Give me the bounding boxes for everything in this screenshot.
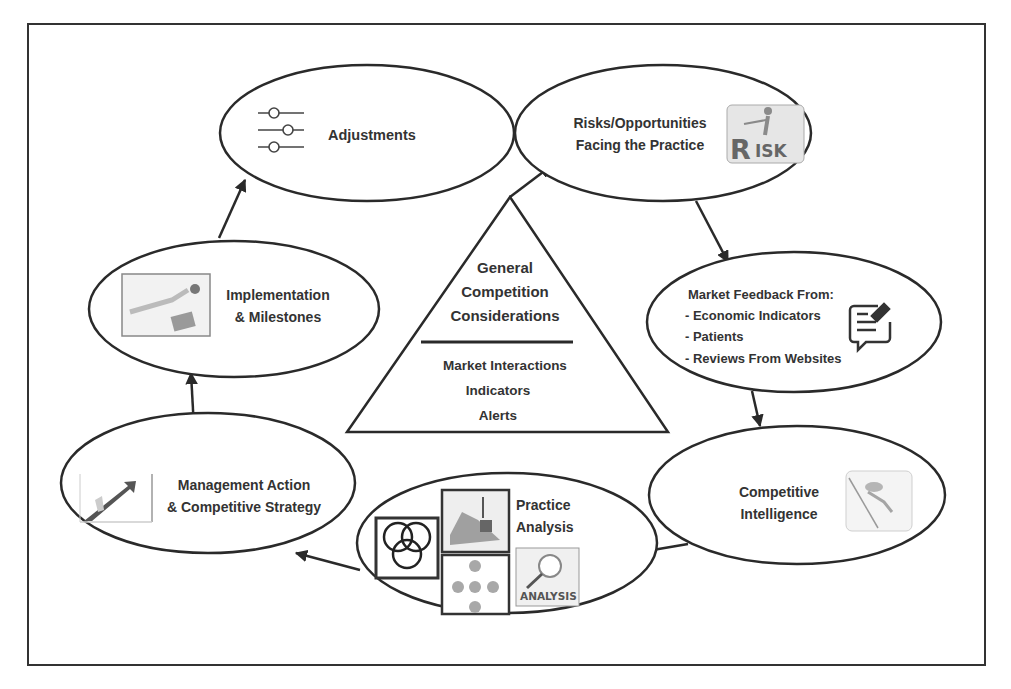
center-title-line-1: General [477,259,533,276]
node-market-feedback: Market Feedback From: - Economic Indicat… [647,252,941,392]
center-title-line-2: Competition [461,283,549,300]
node-intelligence-label-line-1: Competitive [739,484,819,500]
analysis-magnifier-icon: ANALYSIS [516,548,579,606]
risk-icon: R ISK [727,105,804,165]
center-item-alerts: Alerts [479,408,517,423]
node-adjustments-label: Adjustments [328,127,416,143]
scale-chart-icon [442,490,509,552]
node-implementation: Implementation & Milestones [89,241,379,377]
network-icon [442,555,509,614]
node-feedback-label-line-3: - Patients [685,329,744,344]
node-feedback-label-line-4: - Reviews From Websites [685,351,842,366]
node-analysis-label-line-1: Practice [516,497,571,513]
node-risks-label-line-1: Risks/Opportunities [573,115,706,131]
node-analysis-label-line-2: Analysis [516,519,574,535]
node-implementation-label-line-2: & Milestones [235,309,322,325]
node-feedback-label-line-1: Market Feedback From: [688,287,834,302]
node-feedback-label-line-2: - Economic Indicators [685,308,821,323]
risk-icon-isk: ISK [755,141,788,161]
venn-diagram-icon [376,518,438,578]
node-implementation-label-line-1: Implementation [226,287,329,303]
milestone-icon [122,274,210,336]
node-management-label-line-1: Management Action [178,477,311,493]
risk-icon-r: R [730,134,751,165]
node-management-label-line-2: & Competitive Strategy [167,499,321,515]
center-title-line-3: Considerations [450,307,559,324]
node-risks-label-line-2: Facing the Practice [576,137,705,153]
node-intelligence-label-line-2: Intelligence [740,506,817,522]
analysis-icon-text: ANALYSIS [520,590,577,602]
node-competitive-intelligence: Competitive Intelligence [649,426,945,564]
center-item-market-interactions: Market Interactions [443,358,567,373]
center-item-indicators: Indicators [466,383,531,398]
node-adjustments: Adjustments [220,65,514,201]
node-risks: Risks/Opportunities Facing the Practice … [515,65,811,201]
node-practice-analysis: Practice Analysis ANALYSIS [357,473,657,614]
climber-icon [846,471,912,531]
competition-cycle-diagram: General Competition Considerations Marke… [0,0,1011,689]
node-management-action: Management Action & Competitive Strategy [61,413,355,553]
